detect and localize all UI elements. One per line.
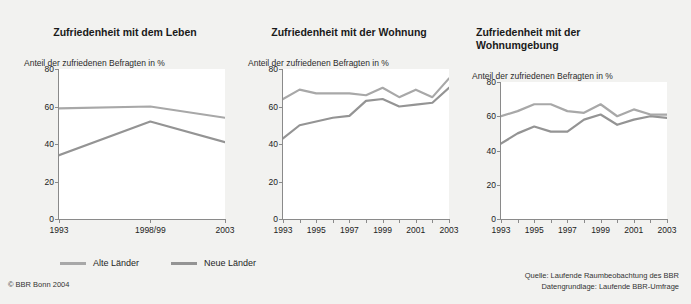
y-axis-tick (497, 151, 501, 152)
chart-panel-wohnumgebung: Zufriedenheit mit der Wohnumgebung Antei… (466, 0, 680, 248)
y-axis-tick-label: 40 (487, 146, 496, 156)
x-axis-tick-label: 1998/99 (135, 225, 166, 235)
x-axis-tick-label: 1997 (558, 225, 577, 235)
x-axis-tick-label: 1995 (307, 225, 326, 235)
legend-entry: Alte Länder (60, 258, 139, 268)
y-axis-tick-label: 20 (487, 180, 496, 190)
panel-title-line1: Zufriedenheit mit der (476, 26, 580, 38)
y-axis-tick (497, 116, 501, 117)
x-axis-tick-label: 1997 (340, 225, 359, 235)
y-axis-tick (55, 182, 59, 183)
panel-title-line1: Zufriedenheit mit der Wohnung (271, 26, 427, 38)
legend-line-icon (171, 262, 197, 265)
x-axis-tick (650, 219, 651, 223)
legend-label: Neue Länder (204, 258, 256, 268)
y-axis-tick-label: 0 (49, 214, 54, 224)
series-line (59, 122, 225, 156)
y-axis-tick (279, 69, 283, 70)
y-axis-tick (55, 144, 59, 145)
series-line (501, 115, 667, 144)
chart-panel-leben: Zufriedenheit mit dem Leben Anteil der z… (18, 0, 232, 248)
source-note: Quelle: Laufende Raumbeobachtung des BBR… (525, 270, 679, 292)
y-axis-tick-label: 80 (269, 64, 278, 74)
series-canvas (59, 69, 225, 219)
legend-entry: Neue Länder (171, 258, 256, 268)
x-axis-tick (584, 219, 585, 223)
y-axis-tick (55, 107, 59, 108)
x-axis-tick-label: 1993 (50, 225, 69, 235)
copyright-text: © BBR Bonn 2004 (8, 280, 69, 289)
panel-title-line1: Zufriedenheit mit dem Leben (53, 26, 197, 38)
chart-figure: Zufriedenheit mit dem Leben Anteil der z… (0, 0, 691, 304)
y-axis-tick-label: 80 (487, 77, 496, 87)
y-axis-tick (279, 107, 283, 108)
x-axis-tick (416, 219, 417, 223)
y-axis-tick-label: 60 (487, 111, 496, 121)
source-line-1: Quelle: Laufende Raumbeobachtung des BBR (525, 270, 679, 281)
chart-panel-wohnung: Zufriedenheit mit der Wohnung Anteil der… (242, 0, 456, 248)
series-canvas (501, 82, 667, 219)
plot-area: 020406080199319951997199920012003 (500, 82, 667, 220)
y-axis-tick-label: 20 (45, 177, 54, 187)
x-axis-tick (518, 219, 519, 223)
x-axis-tick (432, 219, 433, 223)
x-axis-tick (333, 219, 334, 223)
x-axis-tick-label: 2003 (440, 225, 459, 235)
series-line (283, 78, 449, 99)
x-axis-tick (225, 219, 226, 223)
x-axis-tick (59, 219, 60, 223)
x-axis-tick-label: 2003 (216, 225, 235, 235)
series-line (501, 104, 667, 116)
chart-legend: Alte LänderNeue Länder (60, 256, 278, 270)
x-axis-tick-label: 2001 (624, 225, 643, 235)
legend-line-icon (60, 262, 86, 265)
y-axis-tick (55, 69, 59, 70)
panel-title: Zufriedenheit mit der Wohnung (242, 26, 456, 39)
y-axis-tick-label: 60 (45, 102, 54, 112)
x-axis-tick-label: 2001 (406, 225, 425, 235)
y-axis-tick (497, 185, 501, 186)
x-axis-tick (399, 219, 400, 223)
y-axis-tick (497, 82, 501, 83)
y-axis-tick-label: 40 (269, 139, 278, 149)
y-axis-tick (279, 182, 283, 183)
plot-area: 020406080199319951997199920012003 (282, 69, 449, 220)
y-axis-tick-label: 80 (45, 64, 54, 74)
panel-title: Zufriedenheit mit dem Leben (18, 26, 232, 39)
x-axis-tick (316, 219, 317, 223)
source-line-2: Datengrundlage: Laufende BBR-Umfrage (525, 281, 679, 292)
series-canvas (283, 69, 449, 219)
x-axis-tick (551, 219, 552, 223)
x-axis-tick (534, 219, 535, 223)
panel-title: Zufriedenheit mit der Wohnumgebung (476, 26, 676, 52)
x-axis-tick (601, 219, 602, 223)
x-axis-tick (283, 219, 284, 223)
x-axis-tick-label: 1999 (373, 225, 392, 235)
y-axis-tick-label: 0 (491, 214, 496, 224)
plot-area: 02040608019931998/992003 (58, 69, 225, 220)
panel-title-line2: Wohnumgebung (476, 39, 676, 52)
x-axis-tick (634, 219, 635, 223)
x-axis-tick-label: 1995 (525, 225, 544, 235)
x-axis-tick (383, 219, 384, 223)
x-axis-tick (349, 219, 350, 223)
x-axis-tick (449, 219, 450, 223)
x-axis-tick (567, 219, 568, 223)
series-line (59, 107, 225, 118)
x-axis-tick-label: 1993 (492, 225, 511, 235)
y-axis-tick-label: 0 (273, 214, 278, 224)
x-axis-tick (617, 219, 618, 223)
y-axis-tick-label: 20 (269, 177, 278, 187)
x-axis-tick (300, 219, 301, 223)
y-axis-tick (279, 144, 283, 145)
x-axis-tick-label: 1999 (591, 225, 610, 235)
y-axis-tick-label: 60 (269, 102, 278, 112)
x-axis-tick (501, 219, 502, 223)
legend-label: Alte Länder (93, 258, 139, 268)
x-axis-tick (150, 219, 151, 223)
x-axis-tick (667, 219, 668, 223)
x-axis-tick-label: 1993 (274, 225, 293, 235)
x-axis-tick-label: 2003 (658, 225, 677, 235)
x-axis-tick (366, 219, 367, 223)
y-axis-tick-label: 40 (45, 139, 54, 149)
